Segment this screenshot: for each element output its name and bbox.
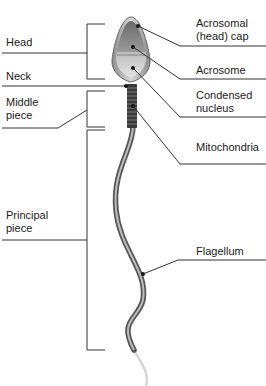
principal-piece-bracket (2, 130, 105, 350)
label-acrosome: Acrosome (196, 64, 246, 77)
sperm-diagram (0, 0, 266, 386)
flagellum-shape (115, 126, 143, 350)
flagellum-leader (143, 260, 266, 274)
label-flagellum: Flagellum (196, 245, 244, 258)
tail-end (134, 350, 147, 386)
neck-dot (124, 84, 128, 88)
label-head: Head (6, 36, 32, 49)
label-mitochondria: Mitochondria (196, 141, 259, 154)
label-condensed-nucleus: Condensed nucleus (196, 89, 252, 115)
label-middle-piece: Middle piece (6, 96, 38, 122)
label-neck: Neck (6, 70, 31, 83)
label-acrosomal-cap: Acrosomal (head) cap (196, 17, 249, 43)
label-principal-piece: Principal piece (6, 209, 48, 235)
